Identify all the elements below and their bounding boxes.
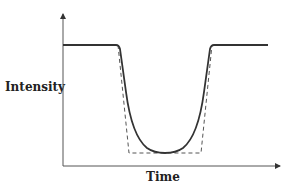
plot-canvas <box>0 0 290 191</box>
solid-light-curve <box>63 45 268 153</box>
dashed-trapezoid-curve <box>118 45 212 153</box>
x-axis-label: Time <box>146 170 180 184</box>
y-axis-label: Intensity <box>5 80 65 94</box>
transit-light-curve-figure: Intensity Time <box>0 0 290 191</box>
